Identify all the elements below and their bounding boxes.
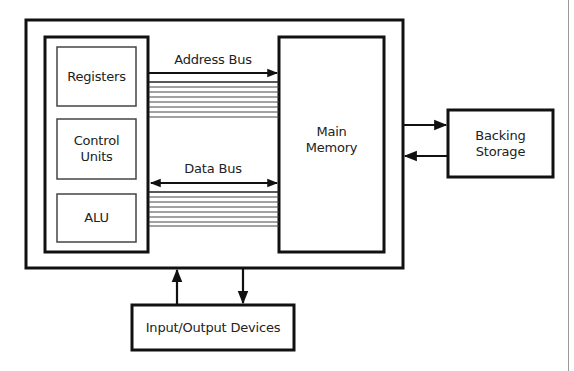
main-memory-label: Main Memory [279,120,384,160]
address-bus-lines [149,82,279,117]
address-bus-label: Address Bus [160,51,266,69]
page-edge-rule [568,0,569,371]
io-devices-label: Input/Output Devices [132,305,294,350]
data-bus-label: Data Bus [160,160,266,178]
registers-label: Registers [57,47,136,106]
alu-label: ALU [57,194,136,242]
data-bus-lines [149,192,279,226]
backing-storage-label: Backing Storage [448,110,553,177]
control-units-label: Control Units [57,119,136,179]
